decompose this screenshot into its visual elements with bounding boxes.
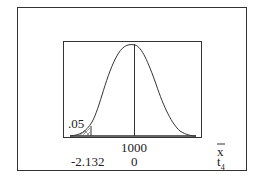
t-center-label: 0 — [131, 155, 138, 168]
tail-area-label: .05 — [68, 117, 84, 130]
t-axis-label: t4 — [217, 155, 225, 174]
t-critical-label: -2.132 — [71, 155, 105, 168]
bell-curve — [70, 45, 196, 136]
center-xbar-label: 1000 — [121, 141, 147, 154]
